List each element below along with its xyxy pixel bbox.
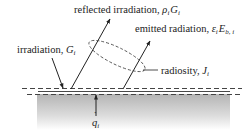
solid-body <box>37 94 230 130</box>
emitted-label: emitted radiation, εiEb, i <box>135 23 234 36</box>
irradiation-arrow <box>52 58 63 88</box>
radiation-diagram: reflected irradiation, ρiGi emitted radi… <box>0 0 252 137</box>
radiosity-ellipse <box>85 35 148 77</box>
radiosity-label: radiosity, Ji <box>161 65 209 78</box>
heat-flux-dot: ˙ <box>94 110 98 121</box>
reflected-arrow <box>71 19 110 89</box>
irradiation-label: irradiation, Gi <box>17 44 76 57</box>
emitted-arrow <box>123 41 150 89</box>
reflected-label: reflected irradiation, ρiGi <box>74 4 180 17</box>
